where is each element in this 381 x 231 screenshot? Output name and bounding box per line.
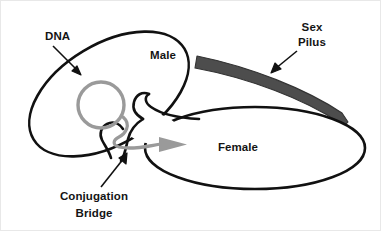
label-conjugation-bridge-line2: Bridge <box>75 207 112 219</box>
conjugation-bridge-leader-line <box>101 158 124 187</box>
label-sex-pilus-line2: Pilus <box>298 36 326 48</box>
label-male: Male <box>150 49 176 61</box>
label-dna: DNA <box>45 30 70 42</box>
label-conjugation-bridge-line1: Conjugation <box>60 190 128 202</box>
diagram-canvas: DNA Male Sex Pilus Female Conjugation Br… <box>0 0 381 231</box>
label-female: Female <box>218 141 258 153</box>
label-sex-pilus-line1: Sex <box>302 21 323 33</box>
bacterial-conjugation-diagram: DNA Male Sex Pilus Female Conjugation Br… <box>1 1 381 231</box>
